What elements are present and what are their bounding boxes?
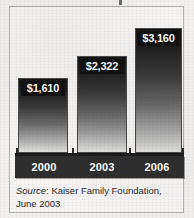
- source-label: Source: [16, 185, 46, 196]
- bar-value-2000: $1,610: [21, 81, 65, 96]
- bar-value-2003: $2,322: [80, 59, 124, 74]
- bar-2006[interactable]: $3,160: [135, 28, 182, 153]
- plot-area: $1,610 $2,322 $3,160: [15, 11, 184, 153]
- bar-2000[interactable]: $1,610: [18, 78, 68, 153]
- year-label-2003: 2003: [76, 156, 128, 178]
- chart-figure: $1,610 $2,322 $3,160 2000 2003 2006 Sour…: [0, 0, 194, 218]
- year-label-2000: 2000: [18, 156, 70, 178]
- year-axis-band: 2000 2003 2006: [15, 156, 184, 178]
- bar-2003[interactable]: $2,322: [77, 56, 127, 153]
- source-note: Source: Kaiser Family Foundation, June 2…: [16, 185, 179, 210]
- chart-frame: $1,610 $2,322 $3,160 2000 2003 2006 Sour…: [9, 6, 184, 213]
- bar-value-2006: $3,160: [138, 31, 179, 46]
- cropped-title-remnant: [119, 0, 122, 5]
- year-label-2006: 2006: [132, 156, 182, 178]
